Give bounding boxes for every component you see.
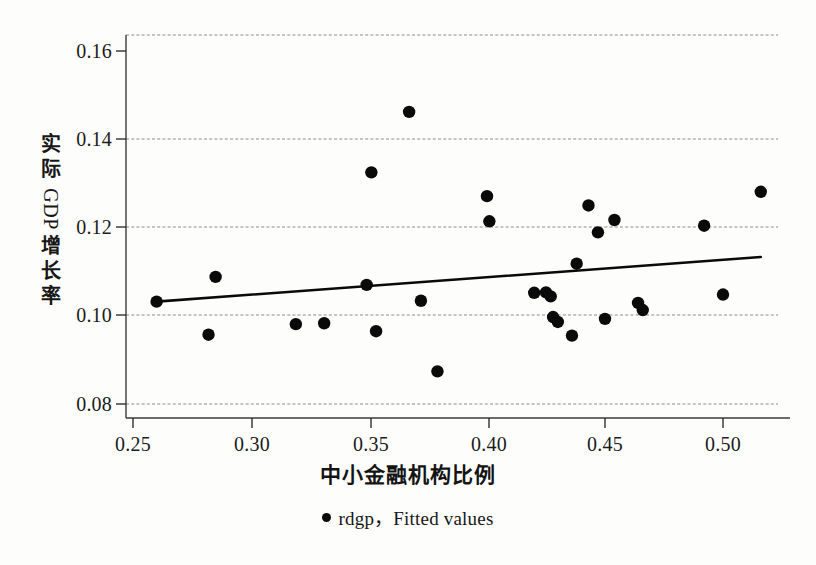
scatter-point [365, 166, 377, 178]
gridlines [126, 35, 778, 404]
scatter-point [599, 313, 611, 325]
y-axis-title-char-5: 长 [41, 259, 61, 284]
scatter-point [582, 199, 594, 211]
y-axis-title-gdp: GDP [40, 188, 62, 230]
scatter-point [431, 365, 443, 377]
scatter-point [209, 271, 221, 283]
ytick-label-0.08: 0.08 [62, 394, 112, 414]
xtick-label-0.25: 0.25 [98, 434, 168, 454]
y-axis-title-char-6: 率 [41, 284, 61, 309]
y-axis-title-char-2: 际 [41, 157, 61, 182]
x-tick-marks [133, 418, 723, 428]
ytick-label-0.14: 0.14 [62, 129, 112, 149]
scatter-point [415, 295, 427, 307]
scatter-point [481, 190, 493, 202]
scatter-point [528, 287, 540, 299]
x-axis-title: 中小金融机构比例 [0, 458, 816, 488]
scatter-point [552, 316, 564, 328]
scatter-point [755, 186, 767, 198]
scatter-point [608, 214, 620, 226]
scatter-point [698, 220, 710, 232]
scatter-point [150, 295, 162, 307]
scatter-point [570, 257, 582, 269]
legend-label: rdgp，Fitted values [338, 503, 493, 530]
xtick-label-0.50: 0.50 [688, 434, 758, 454]
xtick-label-0.45: 0.45 [570, 434, 640, 454]
xtick-label-0.30: 0.30 [217, 434, 287, 454]
scatter-point [566, 329, 578, 341]
ytick-label-0.10: 0.10 [62, 305, 112, 325]
scatter-point [290, 318, 302, 330]
scatter-point [637, 304, 649, 316]
scatter-point [370, 325, 382, 337]
scatter-point-group [150, 106, 767, 378]
scatter-point [717, 288, 729, 300]
xtick-label-0.40: 0.40 [454, 434, 524, 454]
chart-legend: rdgp，Fitted values [0, 503, 816, 530]
scatter-point [483, 215, 495, 227]
scatter-point [360, 279, 372, 291]
y-axis-title-char-1: 实 [41, 132, 61, 157]
ytick-label-0.16: 0.16 [62, 41, 112, 61]
y-tick-marks [116, 51, 126, 404]
scatter-chart-figure: 0.16 0.14 0.12 0.10 0.08 0.25 0.30 0.35 … [0, 0, 816, 565]
scatter-point [202, 329, 214, 341]
scatter-point [592, 226, 604, 238]
fitted-values-line [157, 257, 761, 302]
y-axis-title-char-4: 增 [41, 234, 61, 259]
scatter-point [545, 290, 557, 302]
xtick-label-0.35: 0.35 [336, 434, 406, 454]
scatter-point [403, 106, 415, 118]
y-axis-title: 实 际 GDP 增 长 率 [36, 132, 66, 309]
legend-marker-icon [322, 513, 331, 522]
ytick-label-0.12: 0.12 [62, 217, 112, 237]
scatter-point [318, 317, 330, 329]
